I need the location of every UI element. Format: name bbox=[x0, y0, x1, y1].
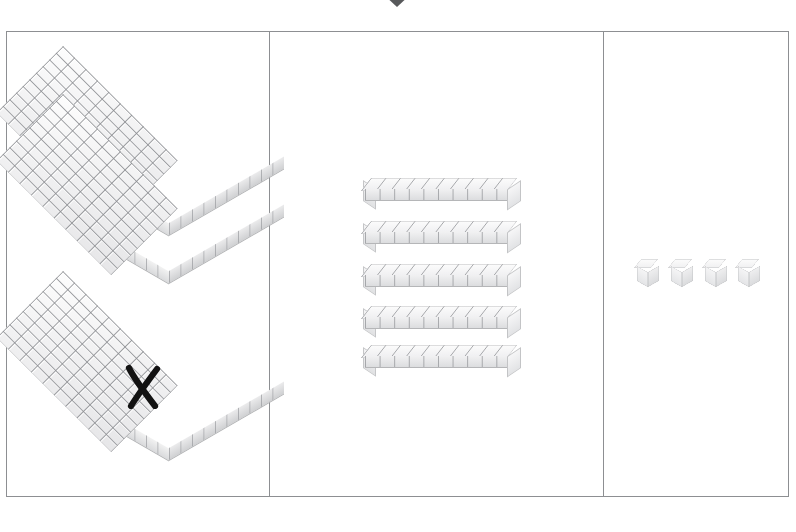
rod-front-face bbox=[365, 232, 511, 244]
rod-block-3[interactable] bbox=[363, 264, 521, 290]
flat-block-3[interactable] bbox=[29, 302, 259, 462]
unit-left-face bbox=[738, 266, 749, 287]
unit-block-3[interactable] bbox=[704, 259, 730, 289]
hundreds-column-label: Hundreds bbox=[7, 32, 8, 33]
down-triangle-icon[interactable] bbox=[383, 0, 411, 7]
unit-block-4[interactable] bbox=[737, 259, 763, 289]
hundreds-column[interactable]: Hundreds bbox=[7, 32, 269, 496]
unit-left-face bbox=[637, 266, 648, 287]
place-value-frame: Hundreds bbox=[6, 31, 789, 497]
unit-right-face bbox=[648, 266, 659, 287]
unit-block-2[interactable] bbox=[670, 259, 696, 289]
tens-column[interactable]: Tens bbox=[269, 32, 603, 496]
unit-left-face bbox=[671, 266, 682, 287]
unit-right-face bbox=[749, 266, 760, 287]
flat-top-face bbox=[0, 271, 178, 452]
rod-front-face bbox=[365, 356, 511, 368]
unit-left-face bbox=[705, 266, 716, 287]
rod-block-5[interactable] bbox=[363, 345, 521, 371]
ones-column[interactable]: Ones bbox=[603, 32, 788, 496]
rod-front-face bbox=[365, 189, 511, 201]
tens-column-label: Tens bbox=[269, 32, 270, 33]
rod-block-1[interactable] bbox=[363, 178, 521, 204]
flat-side-right-notches bbox=[169, 382, 284, 460]
rod-block-2[interactable] bbox=[363, 221, 521, 247]
flat-side-right-notches bbox=[169, 205, 284, 283]
ones-column-label: Ones bbox=[603, 32, 604, 33]
flat-unit-grid bbox=[0, 271, 178, 452]
flat-block-2[interactable] bbox=[29, 125, 259, 285]
rod-front-face bbox=[365, 275, 511, 287]
unit-right-face bbox=[682, 266, 693, 287]
rod-front-face bbox=[365, 317, 511, 329]
unit-right-face bbox=[716, 266, 727, 287]
base-ten-blocks-canvas: Hundreds bbox=[0, 0, 796, 532]
rod-block-4[interactable] bbox=[363, 306, 521, 332]
unit-block-1[interactable] bbox=[636, 259, 662, 289]
